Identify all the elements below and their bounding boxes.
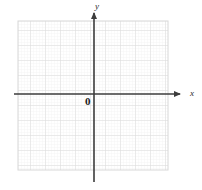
coordinate-plane-figure: y x 0 — [0, 0, 202, 190]
y-axis-label: y — [95, 2, 99, 11]
coordinate-grid-svg — [0, 0, 202, 190]
grid-fill — [18, 21, 168, 170]
grid-area — [18, 21, 168, 170]
x-axis-label: x — [190, 89, 194, 98]
origin-label: 0 — [85, 96, 91, 107]
